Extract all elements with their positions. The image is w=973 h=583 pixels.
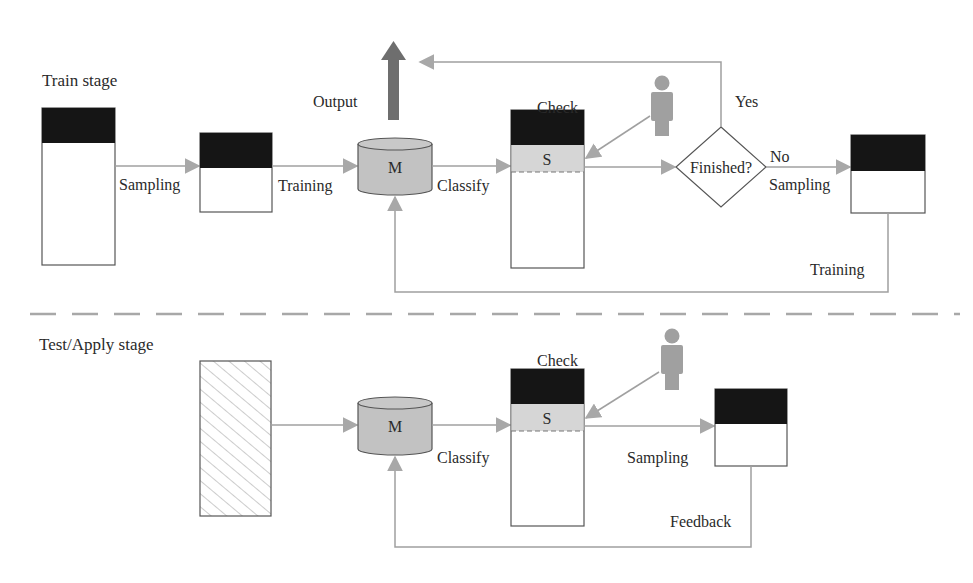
test-classify-label: Classify <box>437 449 489 467</box>
test-model-cylinder: M <box>358 397 432 455</box>
person-icon <box>651 76 673 137</box>
model-label: M <box>388 159 402 176</box>
test-check-arrow <box>586 372 659 418</box>
check-arrow <box>586 116 650 158</box>
training-label: Training <box>278 177 333 195</box>
output-label: Output <box>313 93 358 111</box>
workflow-diagram: Train stage Sampling Training M Output <box>0 0 973 583</box>
finished-decision: Finished? <box>676 127 766 207</box>
train-dataset-box <box>42 108 115 265</box>
model-cylinder: M <box>358 138 432 195</box>
unlabeled-data-box <box>200 361 271 516</box>
classify-label: Classify <box>437 177 489 195</box>
test-sampling-label: Sampling <box>627 449 688 467</box>
feedback-label: Feedback <box>670 513 731 530</box>
classified-box: S <box>511 110 584 268</box>
yes-label: Yes <box>735 93 758 110</box>
decision-label: Finished? <box>690 159 752 176</box>
train-stage-title: Train stage <box>42 71 117 90</box>
selected-label: S <box>543 151 552 168</box>
test-classified-box: S <box>511 369 584 526</box>
test-stage: Test/Apply stage M Classify S <box>39 329 787 548</box>
sampling-label: Sampling <box>119 176 180 194</box>
train-sample-box <box>200 133 272 212</box>
test-model-label: M <box>388 418 402 435</box>
no-label: No <box>770 148 790 165</box>
test-check-label: Check <box>537 352 578 369</box>
resample-label: Sampling <box>769 176 830 194</box>
retrain-label: Training <box>810 261 865 279</box>
test-stage-title: Test/Apply stage <box>39 335 153 354</box>
test-sample-box <box>715 389 787 466</box>
train-stage: Train stage Sampling Training M Output <box>42 41 925 292</box>
output-arrow-icon <box>381 41 406 120</box>
check-label: Check <box>537 99 578 116</box>
test-person-icon <box>661 329 683 391</box>
test-selected-label: S <box>543 410 552 427</box>
resampled-box <box>851 135 925 213</box>
